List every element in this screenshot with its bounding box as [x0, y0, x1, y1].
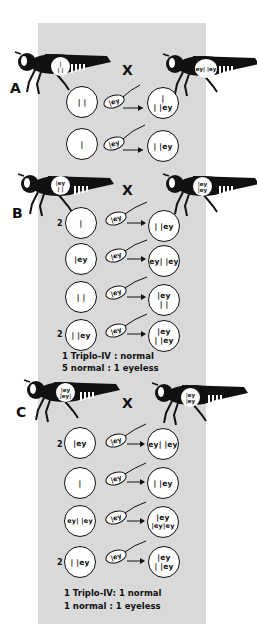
ratio-text: 1 Triplo-IV: 1 normal	[64, 588, 161, 598]
ratio-text: 1 normal : 1 eyeless	[64, 601, 161, 611]
sperm-tail-icon	[0, 0, 257, 637]
